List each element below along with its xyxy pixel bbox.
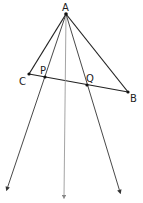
label-A: A: [62, 2, 69, 13]
geometry-diagram: A B C P Q: [0, 0, 143, 203]
ray-through-P: [7, 14, 66, 189]
segment-AB: [66, 14, 128, 92]
segment-AC: [29, 14, 66, 74]
label-Q: Q: [86, 73, 94, 84]
ray-through-Q: [66, 14, 120, 192]
label-P: P: [40, 65, 46, 76]
point-C: [27, 72, 30, 75]
label-C: C: [19, 76, 26, 87]
label-B: B: [130, 93, 137, 104]
ray-middle: [64, 14, 66, 197]
